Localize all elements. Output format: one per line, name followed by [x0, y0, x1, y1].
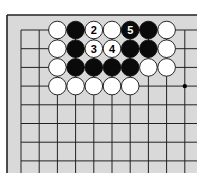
black-stone — [121, 40, 139, 58]
white-stone: 2 — [85, 21, 103, 39]
white-stone — [49, 59, 67, 77]
black-stone — [67, 40, 85, 58]
move-number-label: 3 — [91, 43, 97, 55]
white-stone — [158, 40, 176, 58]
go-diagram: 2534 — [0, 0, 207, 185]
move-number-label: 4 — [109, 43, 116, 55]
black-stone: 5 — [121, 21, 139, 39]
move-number-label: 5 — [127, 24, 133, 36]
white-stone — [103, 77, 121, 95]
white-stone — [158, 21, 176, 39]
white-stone — [67, 77, 85, 95]
go-board: 2534 — [0, 0, 207, 185]
black-stone — [121, 59, 139, 77]
black-stone — [67, 59, 85, 77]
star-point — [183, 84, 187, 88]
white-stone — [49, 40, 67, 58]
star-points — [183, 84, 187, 88]
white-stone — [85, 77, 103, 95]
black-stone — [140, 21, 158, 39]
white-stone — [49, 77, 67, 95]
white-stone: 4 — [103, 40, 121, 58]
black-stone — [140, 40, 158, 58]
white-stone: 3 — [85, 40, 103, 58]
black-stone — [85, 59, 103, 77]
move-number-label: 2 — [91, 24, 97, 36]
white-stone — [140, 59, 158, 77]
white-stone — [49, 21, 67, 39]
white-stone — [103, 21, 121, 39]
white-stone — [158, 59, 176, 77]
black-stone — [103, 59, 121, 77]
black-stone — [67, 21, 85, 39]
white-stone — [121, 77, 139, 95]
